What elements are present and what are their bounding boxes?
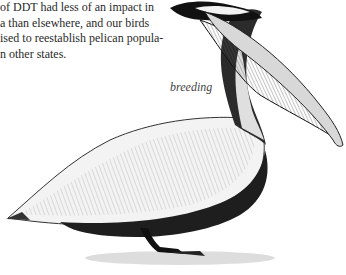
text-line: n other states. xyxy=(0,47,165,63)
text-line: ised to reestablish pelican popula- xyxy=(0,31,165,47)
figure-caption: breeding xyxy=(170,80,212,95)
body-text: of DDT had less of an impact in a than e… xyxy=(0,0,165,62)
text-line: of DDT had less of an impact in xyxy=(0,0,165,16)
text-line: a than elsewhere, and our birds xyxy=(0,16,165,32)
